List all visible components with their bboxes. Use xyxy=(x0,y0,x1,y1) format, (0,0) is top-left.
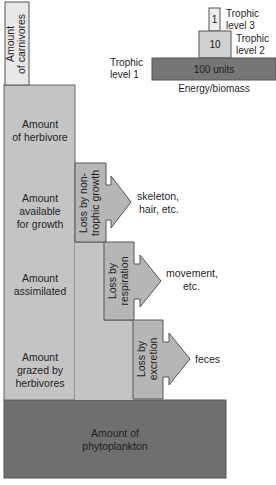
phytoplankton-label-1: Amount of xyxy=(91,427,139,439)
carnivores-label-2: of carnivores xyxy=(15,14,27,74)
output-skeleton-1: skeleton, xyxy=(137,190,179,202)
growth-label-3: for growth xyxy=(17,218,64,230)
assimilated-label-2: assimilated xyxy=(14,285,67,297)
loss-nontrophic-label-1: Loss by non- xyxy=(77,172,89,233)
trophic-level-2-value: 10 xyxy=(209,39,221,50)
grazed-step-2 xyxy=(104,320,133,400)
herbivore-label-2: of herbivore xyxy=(12,131,68,143)
loss-nontrophic-label-2: trophic growth xyxy=(89,170,101,236)
output-feces: feces xyxy=(195,353,220,365)
output-skeleton-2: hair, etc. xyxy=(139,203,179,215)
trophic-level-1-label-2: level 1 xyxy=(110,69,139,80)
output-movement-2: etc. xyxy=(183,280,200,292)
trophic-level-2-label-2: level 2 xyxy=(236,45,265,56)
grazed-step-1 xyxy=(75,242,104,400)
phytoplankton-box xyxy=(4,400,226,478)
loss-respiration-label-2: respiration xyxy=(118,256,130,305)
trophic-level-3-label-1: Trophic xyxy=(226,8,259,19)
trophic-level-3-label-2: level 3 xyxy=(226,20,255,31)
phytoplankton-label-2: phytoplankton xyxy=(82,440,148,452)
energy-flow-diagram: Amount of carnivores Amount of herbivore… xyxy=(0,0,276,485)
trophic-level-2-label-1: Trophic xyxy=(236,33,269,44)
trophic-level-1-label-1: Trophic xyxy=(110,57,143,68)
output-movement-1: movement, xyxy=(166,267,218,279)
growth-label-1: Amount xyxy=(22,192,58,204)
loss-excretion-label-2: excretion xyxy=(147,338,159,381)
trophic-level-3-value: 1 xyxy=(212,14,218,25)
grazed-label-2: grazed by xyxy=(17,364,64,376)
growth-label-2: available xyxy=(19,205,61,217)
trophic-level-1-value: 100 units xyxy=(194,64,235,75)
grazed-label-1: Amount xyxy=(22,351,58,363)
assimilated-label-1: Amount xyxy=(22,272,58,284)
energy-biomass-axis-label: Energy/biomass xyxy=(178,83,250,94)
grazed-label-3: herbivores xyxy=(15,377,64,389)
loss-respiration-label-1: Loss by xyxy=(106,262,118,299)
loss-excretion-label-1: Loss by xyxy=(135,340,147,377)
herbivore-label-1: Amount xyxy=(22,118,58,130)
